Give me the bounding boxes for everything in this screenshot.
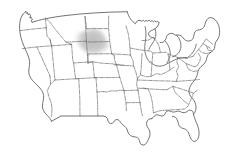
- border-nv-ut: [52, 46, 55, 80]
- border-ut-co: [74, 63, 76, 79]
- border-az-nm: [79, 79, 80, 116]
- border-md-va-de: [186, 63, 198, 71]
- border-ca-nv-diagonal: [37, 47, 50, 76]
- us-map-figure: Map of the United States: [0, 0, 234, 157]
- border-ma-ct-ri: [207, 46, 212, 51]
- national-outline-group: [20, 11, 220, 146]
- border-ut-az: [55, 79, 79, 80]
- border-nv-az-corner: [51, 80, 55, 84]
- us-map-svg: [0, 0, 234, 157]
- border-nj: [197, 53, 201, 66]
